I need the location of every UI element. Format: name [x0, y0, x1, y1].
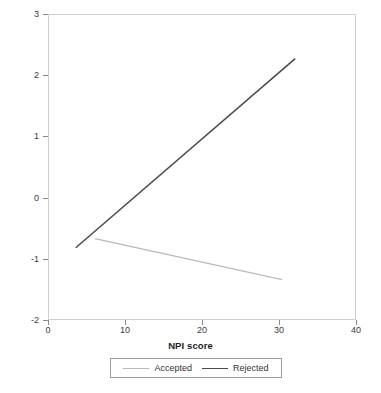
x-tick-label-wrap: 0 [33, 325, 63, 336]
y-tick-mark [43, 198, 48, 199]
y-tick-label: 0 [0, 193, 39, 203]
y-tick-label: 1 [0, 131, 39, 141]
legend-line-swatch [202, 368, 228, 369]
x-axis-label: NPI score [0, 340, 381, 351]
x-tick-label: 20 [187, 325, 217, 336]
x-tick-label-wrap: 20 [187, 325, 217, 336]
legend-label: Rejected [233, 363, 269, 373]
y-tick-label-wrap: 3 [0, 9, 39, 19]
x-tick-label-wrap: 30 [264, 325, 294, 336]
plot-area [48, 14, 356, 320]
y-tick-label: 3 [0, 9, 39, 19]
y-tick-mark [43, 14, 48, 15]
y-tick-label-wrap: 1 [0, 131, 39, 141]
x-tick-label: 40 [341, 325, 371, 336]
x-tick-label-wrap: 40 [341, 325, 371, 336]
y-tick-label-wrap: -2 [0, 315, 39, 325]
y-tick-label-wrap: 0 [0, 193, 39, 203]
y-tick-mark [43, 259, 48, 260]
x-tick-label: 30 [264, 325, 294, 336]
legend-entry-rejected[interactable]: Rejected [202, 363, 269, 373]
y-tick-label: -2 [0, 315, 39, 325]
y-tick-label: -1 [0, 254, 39, 264]
y-tick-label-wrap: -1 [0, 254, 39, 264]
chart-legend: AcceptedRejected [110, 358, 282, 378]
x-tick-label: 0 [33, 325, 63, 336]
x-tick-label-wrap: 10 [110, 325, 140, 336]
y-tick-label: 2 [0, 70, 39, 80]
legend-line-swatch [123, 368, 149, 369]
legend-entry-accepted[interactable]: Accepted [123, 363, 192, 373]
chart-figure: -2-10123 010203040 NPI score Aggression … [0, 0, 381, 393]
legend-label: Accepted [154, 363, 192, 373]
y-tick-label-wrap: 2 [0, 70, 39, 80]
x-tick-label: 10 [110, 325, 140, 336]
y-tick-mark [43, 136, 48, 137]
y-tick-mark [43, 75, 48, 76]
